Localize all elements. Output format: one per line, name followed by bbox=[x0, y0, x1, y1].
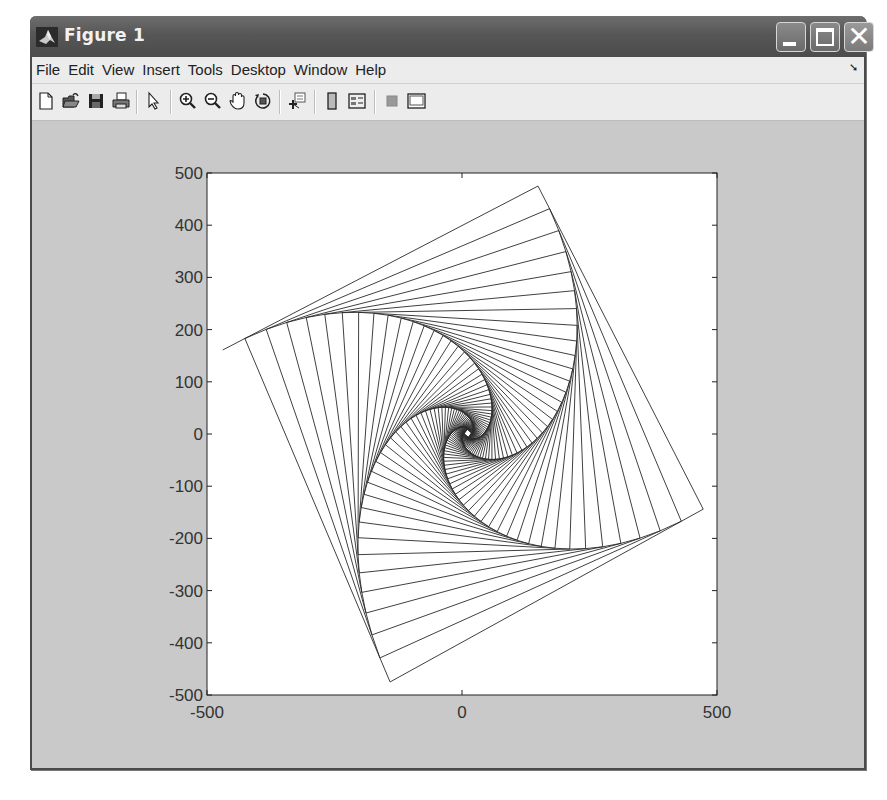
y-tick-label: -300 bbox=[169, 582, 203, 601]
y-tick-label: 500 bbox=[175, 164, 203, 183]
y-tick-label: 0 bbox=[194, 425, 203, 444]
y-tick-label: 300 bbox=[175, 268, 203, 287]
x-tick-label: -500 bbox=[190, 703, 224, 722]
y-tick-label: -400 bbox=[169, 634, 203, 653]
y-tick-label: 100 bbox=[175, 373, 203, 392]
y-tick-label: 400 bbox=[175, 216, 203, 235]
figure-window: Figure 1 ✕ FileEditViewInsertToolsDeskto… bbox=[30, 16, 866, 770]
x-tick-label: 500 bbox=[703, 703, 731, 722]
y-tick-label: 200 bbox=[175, 321, 203, 340]
plot-axes[interactable]: 5004003002001000-100-200-300-400-500-500… bbox=[0, 0, 887, 800]
x-tick-label: 0 bbox=[457, 703, 466, 722]
y-tick-label: -100 bbox=[169, 477, 203, 496]
y-tick-label: -200 bbox=[169, 529, 203, 548]
